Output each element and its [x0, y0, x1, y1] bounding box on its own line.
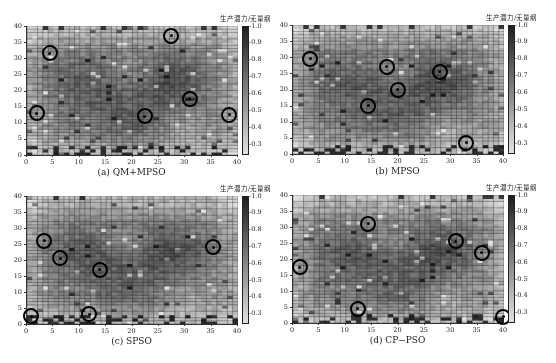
x-tick-mark [132, 155, 133, 157]
x-tick-label: 30 [177, 159, 191, 166]
x-tick-mark [184, 324, 185, 326]
colorbar-tick-label: -0.4 [249, 293, 262, 300]
y-tick-label: 5 [8, 135, 22, 142]
colorbar-tick-label: -0.5 [515, 106, 528, 113]
panel-caption: (d) CP−PSO [338, 335, 458, 345]
y-tick-label: 25 [274, 70, 288, 77]
x-tick-label: 35 [204, 159, 218, 166]
y-tick-mark [24, 244, 26, 245]
x-tick-label: 5 [45, 159, 59, 166]
y-tick-label: 20 [274, 256, 288, 263]
y-tick-label: 5 [274, 134, 288, 141]
y-tick-mark [290, 275, 292, 276]
y-tick-label: 30 [274, 224, 288, 231]
y-tick-mark [24, 196, 26, 197]
heatmap-plot-area [292, 195, 504, 324]
x-tick-label: 30 [443, 158, 457, 165]
x-tick-mark [450, 154, 451, 156]
x-tick-mark [292, 323, 293, 325]
well-dot [143, 115, 146, 118]
colorbar-tick-label: -0.9 [515, 208, 528, 215]
x-tick-mark [503, 154, 504, 156]
y-tick-mark [290, 211, 292, 212]
colorbar-tick-label: -0.8 [515, 55, 528, 62]
x-tick-label: 25 [417, 158, 431, 165]
y-tick-mark [290, 195, 292, 196]
colorbar-tick-label: -0.5 [249, 107, 262, 114]
colorbar-tick-label: -0.6 [249, 260, 262, 267]
x-tick-mark [184, 155, 185, 157]
y-tick-label: 5 [8, 305, 22, 312]
y-tick-label: 15 [8, 103, 22, 110]
y-tick-mark [290, 90, 292, 91]
y-tick-label: 10 [8, 119, 22, 126]
y-tick-mark [290, 259, 292, 260]
y-tick-mark [290, 243, 292, 244]
well-dot [30, 315, 33, 318]
well-dot [228, 113, 231, 116]
x-tick-mark [79, 155, 80, 157]
y-tick-label: 35 [274, 38, 288, 45]
y-tick-mark [290, 291, 292, 292]
y-tick-mark [24, 228, 26, 229]
colorbar-title: 生产潜力/无量纲 [220, 13, 271, 23]
panel-caption: (c) SPSO [72, 336, 192, 346]
x-tick-label: 10 [72, 159, 86, 166]
colorbar-tick-label: -1.0 [249, 193, 262, 200]
y-tick-label: 25 [8, 241, 22, 248]
colorbar-title: 生产潜力/无量纲 [486, 12, 537, 22]
x-tick-mark [132, 324, 133, 326]
x-tick-label: 10 [72, 328, 86, 335]
well-dot [502, 315, 505, 318]
x-tick-mark [158, 155, 159, 157]
y-tick-label: 5 [274, 304, 288, 311]
y-tick-label: 0 [274, 151, 288, 158]
panel-caption: (b) MPSO [338, 166, 458, 176]
y-tick-mark [290, 307, 292, 308]
y-tick-mark [24, 260, 26, 261]
x-tick-label: 40 [496, 327, 510, 334]
y-tick-mark [24, 123, 26, 124]
x-tick-mark [424, 323, 425, 325]
x-tick-label: 20 [125, 159, 139, 166]
x-tick-mark [292, 154, 293, 156]
y-tick-mark [24, 276, 26, 277]
x-tick-label: 30 [177, 328, 191, 335]
y-tick-mark [290, 138, 292, 139]
x-tick-mark [105, 324, 106, 326]
x-tick-label: 15 [98, 159, 112, 166]
y-tick-label: 35 [8, 39, 22, 46]
x-tick-mark [371, 154, 372, 156]
well-dot [35, 112, 38, 115]
y-tick-label: 35 [8, 209, 22, 216]
y-tick-label: 15 [8, 273, 22, 280]
heatmap-canvas [27, 26, 238, 155]
colorbar-tick-label: -0.8 [515, 225, 528, 232]
x-tick-mark [105, 155, 106, 157]
x-tick-label: 0 [285, 327, 299, 334]
colorbar-title: 生产潜力/无量纲 [486, 182, 537, 192]
x-tick-mark [26, 324, 27, 326]
x-tick-label: 25 [151, 159, 165, 166]
x-tick-mark [211, 324, 212, 326]
y-tick-label: 40 [274, 192, 288, 199]
y-tick-label: 30 [8, 55, 22, 62]
y-tick-mark [24, 74, 26, 75]
x-tick-mark [503, 323, 504, 325]
colorbar-tick-label: -0.3 [249, 141, 262, 148]
colorbar-tick-label: -0.7 [249, 243, 262, 250]
y-tick-mark [24, 91, 26, 92]
x-tick-label: 35 [470, 327, 484, 334]
x-tick-mark [26, 155, 27, 157]
x-tick-label: 5 [45, 328, 59, 335]
colorbar-tick-label: -0.9 [249, 39, 262, 46]
x-tick-label: 20 [391, 327, 405, 334]
x-tick-label: 15 [364, 158, 378, 165]
colorbar-tick-label: -0.7 [515, 242, 528, 249]
y-tick-label: 40 [8, 23, 22, 30]
x-tick-mark [318, 323, 319, 325]
colorbar-tick-label: -0.6 [515, 89, 528, 96]
panel-caption: (a) QM+MPSO [72, 167, 192, 177]
y-tick-label: 15 [274, 102, 288, 109]
y-tick-mark [290, 106, 292, 107]
